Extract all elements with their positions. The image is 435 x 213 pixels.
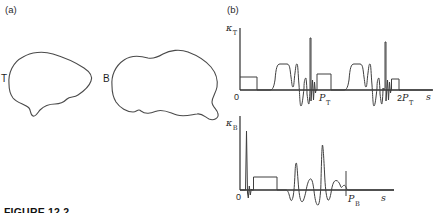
bottom-plot-x-axis-label: s bbox=[381, 193, 386, 203]
bottom-plot-origin-label: 0 bbox=[236, 193, 241, 202]
figure-line-art bbox=[0, 0, 435, 213]
bottom-plot-pb-mark: PB bbox=[348, 194, 359, 206]
panel-a-label: (a) bbox=[5, 5, 17, 15]
top-plot-pt-mark: PT bbox=[319, 93, 330, 105]
panel-b-label: (b) bbox=[227, 5, 239, 15]
blob-t-outline bbox=[9, 52, 92, 116]
top-plot-2pt-mark: 2PT bbox=[397, 93, 413, 105]
top-plot-y-axis-label: κT bbox=[226, 23, 237, 35]
shape-t-label: T bbox=[1, 74, 7, 84]
top-plot-x-axis-label: s bbox=[426, 92, 431, 102]
shape-b-label: B bbox=[103, 74, 110, 84]
blob-b-outline bbox=[112, 50, 218, 119]
figure-container: (a) (b) T B κT 0 PT 2PT s κB 0 PB s FIGU… bbox=[0, 0, 435, 213]
figure-caption: FIGURE 12.2 bbox=[4, 207, 69, 213]
bottom-plot-y-axis-label: κB bbox=[226, 118, 237, 130]
bottom-plot-curve bbox=[240, 131, 394, 205]
top-plot-origin-label: 0 bbox=[234, 93, 239, 102]
